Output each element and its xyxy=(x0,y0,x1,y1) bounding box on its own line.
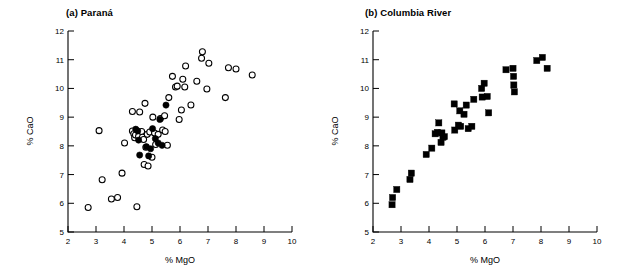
data-point-filled-square xyxy=(481,80,487,86)
data-point-open-circle xyxy=(174,83,180,89)
x-tick-label: 2 xyxy=(371,237,376,246)
data-point-filled-square xyxy=(429,145,435,151)
y-tick-label: 12 xyxy=(360,27,369,36)
data-point-filled-square xyxy=(539,54,545,60)
data-point-open-circle xyxy=(162,129,168,135)
data-point-filled-circle xyxy=(148,146,154,152)
x-tick-label: 7 xyxy=(206,237,211,246)
data-point-filled-square xyxy=(534,57,540,63)
y-tick-label: 9 xyxy=(60,113,65,122)
data-point-filled-square xyxy=(436,120,442,126)
panel-b-y-ticks: 56789101112 xyxy=(360,27,379,237)
x-tick-label: 3 xyxy=(399,237,404,246)
data-point-open-circle xyxy=(145,163,151,169)
data-point-open-circle xyxy=(222,95,228,101)
x-tick-label: 5 xyxy=(150,237,155,246)
data-point-filled-square xyxy=(408,170,414,176)
x-tick-label: 8 xyxy=(234,237,239,246)
x-tick-label: 2 xyxy=(66,237,71,246)
data-point-open-circle xyxy=(166,95,172,101)
y-tick-label: 7 xyxy=(365,171,370,180)
x-tick-label: 5 xyxy=(455,237,460,246)
data-point-open-circle xyxy=(249,72,255,78)
data-point-filled-circle xyxy=(159,142,165,148)
panel-a-plot: 56789101112 2345678910 % MgO % CaO xyxy=(0,0,318,276)
x-tick-label: 8 xyxy=(539,237,544,246)
data-point-open-circle xyxy=(233,66,239,72)
y-tick-label: 5 xyxy=(365,228,370,237)
data-point-open-circle xyxy=(225,65,231,71)
data-point-filled-square xyxy=(394,186,400,192)
panel-b-axis-lines xyxy=(373,31,597,232)
y-tick-label: 10 xyxy=(360,84,369,93)
panel-parana: (a) Paraná 56789101112 2345678910 % MgO … xyxy=(0,0,318,276)
data-point-filled-square xyxy=(469,123,475,129)
data-point-filled-circle xyxy=(137,152,143,158)
data-point-filled-square xyxy=(503,67,509,73)
data-point-filled-square xyxy=(441,134,447,140)
data-point-open-circle xyxy=(199,49,205,55)
panel-a-x-ticks: 2345678910 xyxy=(66,226,297,246)
panel-b-x-axis-label: % MgO xyxy=(470,255,500,265)
data-point-filled-square xyxy=(389,202,395,208)
panel-b-data-points xyxy=(389,54,550,208)
x-tick-label: 6 xyxy=(178,237,183,246)
data-point-open-circle xyxy=(176,116,182,122)
data-point-open-circle xyxy=(183,63,189,69)
panel-b-plot: 56789101112 2345678910 % MgO % CaO xyxy=(305,0,625,276)
x-tick-label: 7 xyxy=(511,237,516,246)
data-point-filled-square xyxy=(423,151,429,157)
panel-a-y-ticks: 56789101112 xyxy=(55,27,74,237)
data-point-filled-square xyxy=(544,65,550,71)
data-point-filled-circle xyxy=(146,153,152,159)
x-tick-label: 6 xyxy=(483,237,488,246)
y-tick-label: 10 xyxy=(55,84,64,93)
panel-b-y-axis-label: % CaO xyxy=(330,116,340,145)
data-point-filled-circle xyxy=(135,128,141,134)
data-point-filled-square xyxy=(451,101,457,107)
y-tick-label: 8 xyxy=(60,142,65,151)
data-point-open-circle xyxy=(115,195,121,201)
y-tick-label: 5 xyxy=(60,228,65,237)
x-tick-label: 10 xyxy=(593,237,602,246)
data-point-filled-circle xyxy=(149,126,155,132)
data-point-filled-square xyxy=(461,111,467,117)
y-tick-label: 11 xyxy=(361,56,370,65)
panel-a-y-axis-label: % CaO xyxy=(25,116,35,145)
data-point-filled-circle xyxy=(135,137,141,143)
data-point-open-circle xyxy=(99,177,105,183)
x-tick-label: 3 xyxy=(94,237,99,246)
data-point-open-circle xyxy=(129,108,135,114)
data-point-filled-square xyxy=(458,123,464,129)
data-point-open-circle xyxy=(169,73,175,79)
x-tick-label: 10 xyxy=(288,237,297,246)
data-point-open-circle xyxy=(206,60,212,66)
data-point-filled-square xyxy=(390,194,396,200)
data-point-open-circle xyxy=(85,205,91,211)
data-point-open-circle xyxy=(178,107,184,113)
data-point-open-circle xyxy=(150,114,156,120)
data-point-filled-square xyxy=(510,65,516,71)
y-tick-label: 6 xyxy=(365,199,370,208)
data-point-open-circle xyxy=(194,78,200,84)
x-tick-label: 9 xyxy=(567,237,572,246)
data-point-open-circle xyxy=(137,109,143,115)
x-tick-label: 4 xyxy=(122,237,127,246)
data-point-filled-circle xyxy=(163,102,169,108)
data-point-open-circle xyxy=(134,204,140,210)
y-tick-label: 11 xyxy=(56,56,65,65)
data-point-open-circle xyxy=(142,100,148,106)
data-point-filled-square xyxy=(486,110,492,116)
data-point-filled-square xyxy=(511,89,517,95)
data-point-filled-square xyxy=(463,102,469,108)
panel-columbia-river: (b) Columbia River 56789101112 234567891… xyxy=(305,0,625,276)
x-tick-label: 4 xyxy=(427,237,432,246)
y-tick-label: 6 xyxy=(60,199,65,208)
data-point-filled-square xyxy=(471,96,477,102)
data-point-open-circle xyxy=(180,76,186,82)
data-point-open-circle xyxy=(119,170,125,176)
panel-b-x-ticks: 2345678910 xyxy=(371,226,602,246)
data-point-filled-square xyxy=(484,93,490,99)
data-point-open-circle xyxy=(122,140,128,146)
data-point-open-circle xyxy=(96,128,102,134)
